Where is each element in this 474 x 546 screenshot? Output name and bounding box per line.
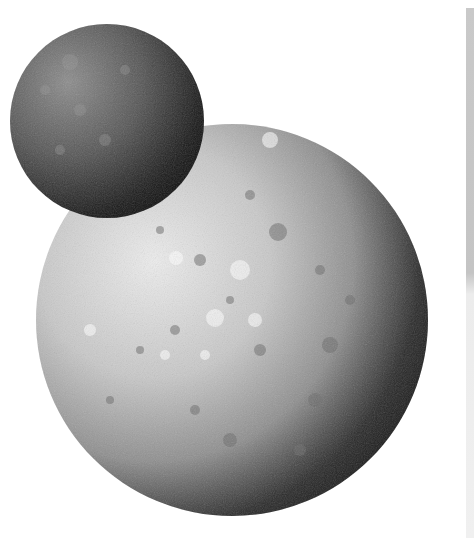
small-moon xyxy=(10,24,204,218)
planets-illustration xyxy=(0,0,474,546)
